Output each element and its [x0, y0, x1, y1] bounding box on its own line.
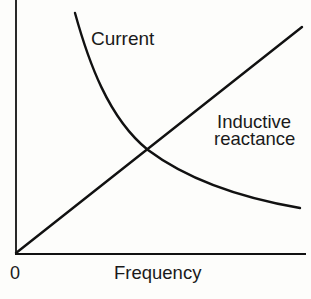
- current-label: Current: [91, 28, 155, 49]
- origin-label: 0: [10, 263, 20, 283]
- x-axis-label: Frequency: [114, 262, 202, 283]
- diagram-canvas: Current Inductive reactance 0 Frequency: [0, 0, 311, 299]
- inductive-label-line2: reactance: [214, 128, 295, 149]
